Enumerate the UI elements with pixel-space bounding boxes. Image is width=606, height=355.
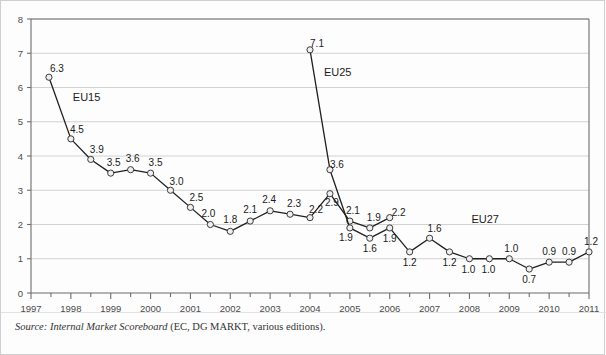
data-point[interactable] (586, 249, 592, 255)
data-label: 2.2 (392, 207, 406, 218)
data-label: 1.8 (223, 214, 237, 225)
data-label: 3.5 (107, 157, 121, 168)
data-label: 1.6 (363, 243, 377, 254)
series-label-eu27: EU27 (471, 213, 499, 225)
data-label: 6.3 (50, 63, 64, 74)
data-point[interactable] (486, 256, 492, 262)
data-label: 0.9 (562, 246, 576, 257)
data-label: 2.0 (201, 208, 215, 219)
data-label: 2.3 (287, 198, 301, 209)
y-tick-label: 3 (18, 185, 23, 196)
data-point[interactable] (68, 136, 74, 142)
data-point[interactable] (466, 256, 472, 262)
data-point[interactable] (367, 225, 373, 231)
data-label: 1.6 (428, 223, 442, 234)
data-point[interactable] (108, 170, 114, 176)
data-label: 4.5 (70, 124, 84, 135)
data-label: 1.0 (461, 264, 475, 275)
y-tick-label: 2 (18, 219, 23, 230)
data-label: 1.9 (367, 212, 381, 223)
data-label: 3.9 (90, 144, 104, 155)
source-rest: (EC, DG MARKT, various editions). (170, 321, 325, 332)
data-label: 3.6 (330, 159, 344, 170)
y-tick-label: 0 (18, 288, 23, 299)
y-tick-label: 4 (18, 151, 23, 162)
data-point[interactable] (247, 218, 253, 224)
data-point[interactable] (227, 228, 233, 234)
series-label-eu25: EU25 (324, 66, 352, 78)
data-label: 2.1 (243, 204, 257, 215)
data-point[interactable] (347, 225, 353, 231)
data-label: 1.2 (403, 257, 417, 268)
data-point[interactable] (207, 221, 213, 227)
data-label: 0.7 (522, 274, 536, 285)
y-tick-label: 6 (18, 82, 23, 93)
data-label: 3.6 (126, 153, 140, 164)
data-point[interactable] (167, 187, 173, 193)
caption-divider (1, 312, 606, 313)
y-tick-label: 1 (18, 253, 23, 264)
data-label: 0.9 (542, 246, 556, 257)
data-point[interactable] (128, 167, 134, 173)
data-point[interactable] (267, 208, 273, 214)
data-point[interactable] (546, 259, 552, 265)
data-point[interactable] (446, 249, 452, 255)
data-point[interactable] (426, 235, 432, 241)
data-label: 1.0 (481, 264, 495, 275)
data-label: 1.9 (383, 233, 397, 244)
data-label: 2.5 (189, 192, 203, 203)
data-point[interactable] (46, 74, 52, 80)
data-label: 7.1 (310, 38, 324, 49)
data-label: 3.0 (170, 176, 184, 187)
data-label: 2.4 (262, 194, 276, 205)
data-point[interactable] (407, 249, 413, 255)
data-point[interactable] (566, 259, 572, 265)
data-label: 2.2 (309, 204, 323, 215)
data-point[interactable] (526, 266, 532, 272)
y-tick-label: 8 (18, 14, 23, 25)
data-point[interactable] (187, 204, 193, 210)
data-label: 2.9 (325, 197, 339, 208)
data-label: 3.5 (149, 157, 163, 168)
y-tick-label: 7 (18, 48, 23, 59)
data-point[interactable] (287, 211, 293, 217)
data-label: 1.0 (504, 243, 518, 254)
source-caption: Source: Internal Market Scoreboard (EC, … (15, 321, 325, 332)
y-tick-label: 5 (18, 116, 23, 127)
data-point[interactable] (367, 235, 373, 241)
data-label: 1.2 (584, 236, 598, 247)
data-point[interactable] (307, 215, 313, 221)
data-label: 2.1 (346, 205, 360, 216)
source-prefix: Source: (15, 321, 47, 332)
source-title: Internal Market Scoreboard (50, 321, 168, 332)
line-chart: 0123456781997199819992000200120022003200… (1, 1, 606, 355)
data-point[interactable] (506, 256, 512, 262)
data-label: 1.9 (339, 232, 353, 243)
data-label: 1.2 (443, 257, 457, 268)
series-label-eu15: EU15 (73, 91, 101, 103)
data-point[interactable] (147, 170, 153, 176)
data-point[interactable] (387, 225, 393, 231)
data-point[interactable] (88, 156, 94, 162)
